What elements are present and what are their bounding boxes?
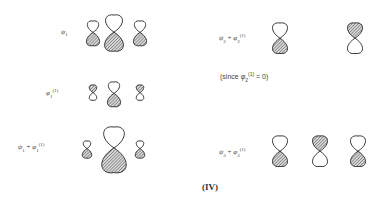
p-orbital-psi1-0 bbox=[84, 19, 102, 48]
open-lobe-bottom bbox=[136, 93, 144, 101]
p-orbital-psi1-2 bbox=[131, 19, 149, 48]
shaded-lobe-bottom bbox=[350, 151, 365, 166]
p-orbital-phi1-5 bbox=[134, 83, 146, 102]
p-orbital-sum2-9 bbox=[270, 21, 290, 55]
shaded-lobe-bottom bbox=[272, 151, 287, 166]
open-lobe-top bbox=[83, 141, 91, 149]
open-lobe-top bbox=[272, 136, 287, 151]
p-orbital-sum1-8 bbox=[133, 139, 147, 160]
open-lobe-top bbox=[272, 23, 287, 38]
shaded-lobe-bottom bbox=[102, 148, 126, 173]
open-lobe-bottom bbox=[347, 38, 362, 53]
shaded-lobe-top bbox=[312, 136, 327, 151]
p-orbital-phi1-4 bbox=[105, 80, 123, 109]
p-orbital-sum3-11 bbox=[270, 134, 290, 168]
shaded-lobe-bottom bbox=[135, 149, 144, 159]
open-lobe-top bbox=[106, 15, 123, 32]
shaded-lobe-bottom bbox=[105, 32, 124, 51]
p-orbital-sum3-12 bbox=[310, 134, 330, 168]
open-lobe-bottom bbox=[89, 93, 97, 101]
shaded-lobe-bottom bbox=[133, 32, 146, 45]
shaded-lobe-top bbox=[347, 23, 362, 38]
open-lobe-bottom bbox=[312, 151, 327, 166]
shaded-lobe-bottom bbox=[107, 93, 120, 106]
open-lobe-top bbox=[350, 136, 365, 151]
shaded-lobe-top bbox=[136, 85, 144, 93]
p-orbital-sum2-10 bbox=[345, 21, 365, 55]
open-lobe-top bbox=[134, 20, 145, 32]
p-orbital-sum1-6 bbox=[80, 139, 94, 160]
p-orbital-phi1-3 bbox=[87, 83, 99, 102]
label-sum3: ψ3 + φ3(1) bbox=[219, 147, 246, 158]
open-lobe-top bbox=[136, 141, 144, 149]
p-orbital-sum3-13 bbox=[348, 134, 368, 168]
label-psi1: ψ1 bbox=[61, 28, 68, 37]
label-phi1: φ1(1) bbox=[46, 88, 58, 99]
p-orbital-psi1-1 bbox=[102, 13, 126, 53]
open-lobe-top bbox=[104, 127, 125, 148]
label-sum2: ψ2 + φ2(1) bbox=[219, 33, 246, 44]
shaded-lobe-bottom bbox=[86, 32, 99, 45]
shaded-lobe-bottom bbox=[82, 149, 91, 159]
p-orbital-sum1-7 bbox=[99, 125, 129, 175]
label-sum1: ψ1 + φ1(1) bbox=[18, 142, 45, 153]
shaded-lobe-bottom bbox=[272, 38, 287, 53]
note-since: (since φ2(1) = 0) bbox=[220, 71, 268, 83]
open-lobe-top bbox=[87, 20, 98, 32]
open-lobe-top bbox=[108, 81, 119, 93]
figure-caption: (IV) bbox=[202, 182, 218, 192]
shaded-lobe-top bbox=[89, 85, 97, 93]
